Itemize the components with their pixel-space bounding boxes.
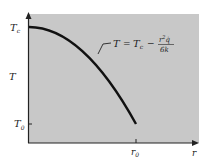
temperature-profile-diagram: T = Tc − r2q̇ 6k Tc T T0 r0 r xyxy=(0,0,210,167)
x-tick-label-r0: r0 xyxy=(131,147,139,158)
equation-equals: = xyxy=(123,39,131,49)
y-axis-label: T xyxy=(9,71,17,82)
x-axis-label: r xyxy=(192,148,197,158)
equation-denominator: 6k xyxy=(160,46,169,54)
equation-numerator: r2q̇ xyxy=(159,34,171,44)
y-tick-label-tc: Tc xyxy=(10,22,21,34)
equation-minus: − xyxy=(147,38,155,48)
y-tick-label-t0: T0 xyxy=(14,118,25,131)
